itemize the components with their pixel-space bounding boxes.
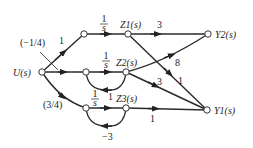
- label-z2: Z2(s): [116, 57, 138, 69]
- node-z3: [123, 105, 129, 111]
- edge-z1-to-y1-arrow: [164, 68, 170, 74]
- gain-z2-to-y2: 8: [175, 57, 180, 68]
- edge-annotation-pointer: [40, 52, 58, 70]
- edge-u-to-top-arrow: [55, 52, 64, 60]
- label-y2: Y2(s): [215, 29, 237, 41]
- svg-text:s: s: [104, 59, 108, 70]
- gain-top-integrator: 1 s: [100, 13, 108, 33]
- node-z1: [125, 31, 131, 37]
- svg-text:s: s: [102, 22, 106, 33]
- gain-annotation: (−1/4): [20, 37, 45, 49]
- node-y1: [204, 107, 210, 113]
- edge-z2-to-y1: [126, 72, 207, 110]
- gain-z1-to-y1: 1: [178, 75, 183, 86]
- gain-z1-to-y2: 3: [157, 19, 162, 30]
- gain-z2-feedback: 1: [108, 91, 113, 102]
- label-u: U(s): [13, 67, 31, 79]
- node-z2: [123, 69, 129, 75]
- gain-u-to-top: 1: [59, 35, 64, 46]
- gain-mid-integrator: 1 s: [102, 50, 110, 70]
- node-mid: [83, 69, 89, 75]
- edge-z2-to-y1-arrow: [148, 82, 156, 86]
- gain-bottom-integrator: 1 s: [91, 88, 99, 108]
- gain-z2-to-y1: 3: [157, 76, 162, 87]
- edge-z3-feedback: [86, 108, 126, 126]
- gain-z3-feedback: −3: [102, 131, 113, 142]
- label-z3: Z3(s): [116, 93, 138, 105]
- node-bottom-mid: [83, 105, 89, 111]
- node-u: [39, 69, 45, 75]
- edge-z3-to-y1: [126, 108, 207, 110]
- edge-z2-to-y2: [126, 34, 208, 72]
- gain-z3-to-y1: 1: [150, 113, 155, 124]
- edge-z2-to-y2-arrow: [164, 55, 172, 58]
- node-y2: [205, 31, 211, 37]
- svg-text:s: s: [93, 97, 97, 108]
- label-y1: Y1(s): [214, 105, 236, 117]
- gain-u-to-bottom: (3/4): [43, 99, 62, 111]
- node-top-mid: [81, 31, 87, 37]
- label-z1: Z1(s): [120, 19, 142, 31]
- signal-flow-graph: U(s) Z1(s) Z2(s) Z3(s) Y2(s) Y1(s) 1 (−1…: [0, 0, 253, 148]
